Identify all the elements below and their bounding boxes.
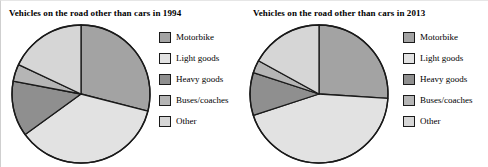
- legend-item-motorbike[interactable]: Motorbike: [159, 27, 245, 48]
- legend-item-heavy-goods[interactable]: Heavy goods: [403, 69, 488, 90]
- pie-chart-2013: [251, 22, 401, 167]
- legend-item-other[interactable]: Other: [403, 111, 488, 132]
- legend-label-other: Other: [176, 116, 197, 127]
- legend-item-other[interactable]: Other: [159, 111, 245, 132]
- chart-panel-1994: Vehicles on the road other than cars in …: [1, 1, 245, 167]
- legend-label-heavy-goods: Heavy goods: [176, 74, 223, 85]
- legend-item-buses-coaches[interactable]: Buses/coaches: [159, 90, 245, 111]
- legend-label-heavy-goods: Heavy goods: [420, 74, 467, 85]
- legend-swatch-motorbike: [159, 32, 171, 43]
- legend-swatch-buses-coaches: [159, 95, 171, 106]
- legend-item-light-goods[interactable]: Light goods: [159, 48, 245, 69]
- legend-swatch-light-goods: [159, 53, 171, 64]
- legend-swatch-heavy-goods: [159, 74, 171, 85]
- legend-item-motorbike[interactable]: Motorbike: [403, 27, 488, 48]
- legend-label-buses-coaches: Buses/coaches: [176, 95, 228, 106]
- page-title: Vehicles on the road other than cars in …: [9, 7, 181, 19]
- legend-swatch-heavy-goods: [403, 74, 415, 85]
- legend-1994: Motorbike Light goods Heavy goods Buses/…: [159, 27, 245, 132]
- legend-swatch-motorbike: [403, 32, 415, 43]
- pie-chart-2013-svg: [251, 22, 401, 167]
- legend-swatch-light-goods: [403, 53, 415, 64]
- legend-item-buses-coaches[interactable]: Buses/coaches: [403, 90, 488, 111]
- figure-root: Vehicles on the road other than cars in …: [0, 0, 488, 167]
- legend-swatch-other: [403, 116, 415, 127]
- legend-label-light-goods: Light goods: [176, 53, 219, 64]
- pie-chart-1994: [7, 22, 157, 167]
- legend-swatch-buses-coaches: [403, 95, 415, 106]
- legend-label-buses-coaches: Buses/coaches: [420, 95, 472, 106]
- legend-label-motorbike: Motorbike: [420, 32, 458, 43]
- page-title-2013: Vehicles on the road other than cars in …: [253, 7, 425, 19]
- legend-swatch-other: [159, 116, 171, 127]
- pie-slice-motorbike[interactable]: [319, 25, 388, 98]
- chart-panel-2013: Vehicles on the road other than cars in …: [245, 1, 488, 167]
- legend-label-motorbike: Motorbike: [176, 32, 214, 43]
- legend-label-other: Other: [420, 116, 441, 127]
- legend-label-light-goods: Light goods: [420, 53, 463, 64]
- legend-2013: Motorbike Light goods Heavy goods Buses/…: [403, 27, 488, 132]
- legend-item-heavy-goods[interactable]: Heavy goods: [159, 69, 245, 90]
- legend-item-light-goods[interactable]: Light goods: [403, 48, 488, 69]
- pie-chart-1994-svg: [7, 22, 157, 167]
